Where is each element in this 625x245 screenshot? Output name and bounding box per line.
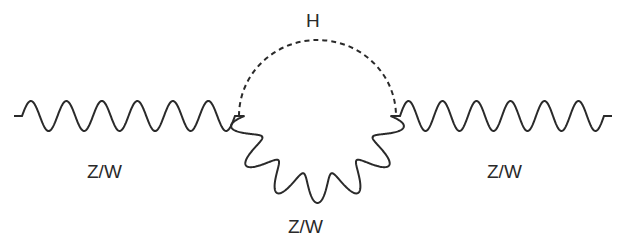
right-boson-label: Z/W bbox=[487, 162, 522, 181]
left-boson-label: Z/W bbox=[87, 162, 122, 181]
left-external-boson-line bbox=[14, 101, 239, 131]
loop-boson-label: Z/W bbox=[288, 217, 323, 236]
right-external-boson-line bbox=[396, 101, 612, 131]
higgs-propagator-dashed-arc bbox=[239, 40, 396, 116]
feynman-diagram bbox=[0, 0, 625, 245]
higgs-label: H bbox=[306, 11, 320, 30]
boson-loop-wavy-arc bbox=[231, 116, 404, 203]
